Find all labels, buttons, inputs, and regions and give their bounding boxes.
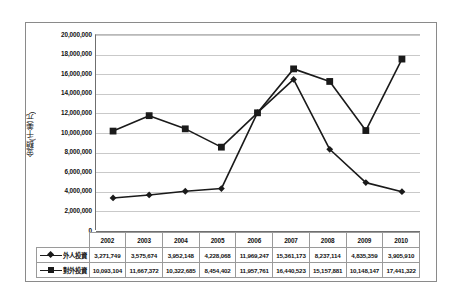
table-cell-value: 3,905,910	[383, 248, 420, 263]
y-axis-title: 金額(千美元)	[24, 88, 38, 180]
table-cell-value: 15,157,881	[309, 263, 346, 278]
table-cell-value: 15,361,173	[273, 248, 310, 263]
legend-marker-square-icon	[40, 266, 62, 275]
data-point-square	[362, 127, 369, 134]
y-tick-label: 16,000,000	[46, 70, 92, 77]
y-tick-label: 12,000,000	[46, 109, 92, 116]
y-axis-tick-labels: 20,000,00018,000,00016,000,00014,000,000…	[42, 34, 92, 230]
data-point-square	[290, 65, 297, 72]
table-header-year: 2010	[383, 233, 420, 248]
table-cell-value: 11,957,761	[236, 263, 273, 278]
table-header-year: 2003	[126, 233, 163, 248]
data-point-square	[182, 125, 189, 132]
table-cell-value: 4,228,068	[199, 248, 236, 263]
data-point-diamond	[146, 192, 153, 199]
data-point-square	[110, 128, 117, 135]
table-cell-value: 11,667,372	[126, 263, 163, 278]
data-point-square	[326, 78, 333, 85]
table-header-year: 2005	[199, 233, 236, 248]
data-point-square	[218, 144, 225, 151]
data-point-square	[399, 56, 406, 63]
table-cell-value: 16,440,523	[273, 263, 310, 278]
table-cell-value: 8,237,114	[309, 248, 346, 263]
table-header-year: 2008	[309, 233, 346, 248]
table-cell-value: 10,148,147	[346, 263, 383, 278]
legend-marker-diamond-icon	[40, 251, 62, 260]
table-header-year: 2009	[346, 233, 383, 248]
table-header-year: 2007	[273, 233, 310, 248]
y-tick-label: 20,000,000	[46, 31, 92, 38]
table-cell-value: 3,271,749	[89, 248, 126, 263]
data-table: 200220032004200520062007200820092010外人投資…	[36, 232, 420, 278]
legend-cell: 外人投資	[37, 248, 90, 263]
data-point-diamond	[182, 188, 189, 195]
series-line	[113, 79, 402, 197]
legend-cell: 對外投資	[37, 263, 90, 278]
chart-screenshot: 金額(千美元) 20,000,00018,000,00016,000,00014…	[0, 0, 463, 298]
table-cell-value: 4,835,359	[346, 248, 383, 263]
table-cell-value: 8,454,402	[199, 263, 236, 278]
y-tick-label: 14,000,000	[46, 89, 92, 96]
legend-label: 對外投資	[63, 266, 86, 275]
series-layer	[95, 34, 420, 230]
table-cell-value: 17,441,322	[383, 263, 420, 278]
table-header-year: 2006	[236, 233, 273, 248]
data-point-square	[254, 109, 261, 116]
y-tick-label: 2,000,000	[46, 207, 92, 214]
table-corner-cell	[37, 233, 90, 248]
y-tick-label: 4,000,000	[46, 187, 92, 194]
y-tick-label: 10,000,000	[46, 129, 92, 136]
data-point-diamond	[218, 185, 225, 192]
data-point-diamond	[399, 188, 406, 195]
y-tick-label: 6,000,000	[46, 168, 92, 175]
table-header-year: 2002	[89, 233, 126, 248]
data-point-diamond	[110, 195, 117, 202]
y-tick-label: 8,000,000	[46, 148, 92, 155]
table-cell-value: 10,093,104	[89, 263, 126, 278]
series-line	[113, 59, 402, 147]
table-cell-value: 3,575,674	[126, 248, 163, 263]
table-header-year: 2004	[162, 233, 199, 248]
table-row: 外人投資3,271,7493,575,6743,952,1484,228,068…	[37, 248, 420, 263]
legend-label: 外人投資	[63, 251, 86, 260]
table-row: 對外投資10,093,10411,667,37210,322,6858,454,…	[37, 263, 420, 278]
table-cell-value: 10,322,685	[162, 263, 199, 278]
table-cell-value: 11,969,247	[236, 248, 273, 263]
y-tick-label: 18,000,000	[46, 50, 92, 57]
data-point-square	[146, 112, 153, 119]
table-header-row: 200220032004200520062007200820092010	[37, 233, 420, 248]
table-cell-value: 3,952,148	[162, 248, 199, 263]
